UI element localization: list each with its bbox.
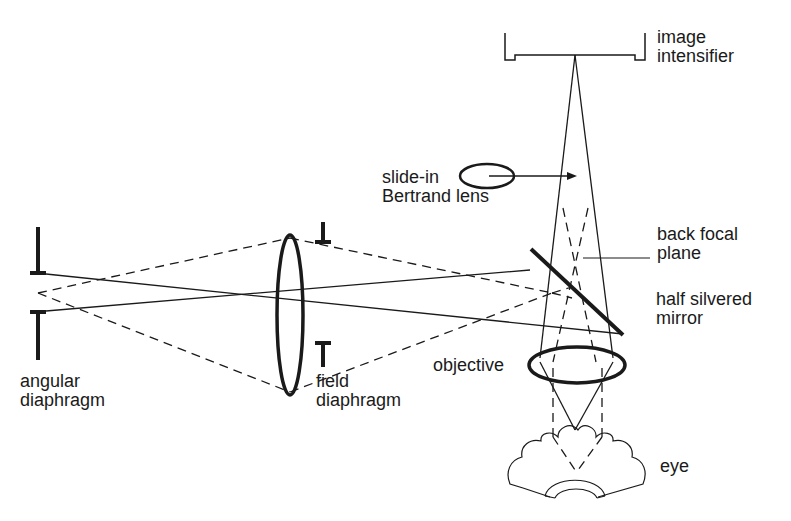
- label-back-focal-plane: back focal plane: [657, 225, 738, 263]
- label-line: angular: [20, 372, 105, 391]
- label-line: eye: [660, 456, 689, 476]
- label-line: plane: [657, 244, 738, 263]
- label-line: mirror: [656, 309, 752, 328]
- label-image-intensifier: image intensifier: [657, 28, 734, 66]
- field-diaphragm: [315, 222, 331, 367]
- eye-icon: [508, 426, 645, 498]
- label-bertrand-lens: slide-in Bertrand lens: [382, 168, 489, 206]
- label-line: back focal: [657, 225, 738, 244]
- label-angular-diaphragm: angular diaphragm: [20, 372, 105, 410]
- label-line: diaphragm: [20, 391, 105, 410]
- label-field-diaphragm: field diaphragm: [316, 372, 401, 410]
- label-line: half silvered: [656, 290, 752, 309]
- label-eye: eye: [660, 457, 689, 476]
- solid-rays-horizontal: [46, 270, 623, 334]
- label-line: image: [657, 28, 734, 47]
- label-line: objective: [433, 355, 504, 375]
- label-line: field: [316, 372, 401, 391]
- label-line: intensifier: [657, 47, 734, 66]
- label-line: Bertrand lens: [382, 187, 489, 206]
- label-line: diaphragm: [316, 391, 401, 410]
- bertrand-arrow: [489, 172, 577, 180]
- label-objective: objective: [433, 356, 504, 375]
- label-line: slide-in: [382, 168, 489, 187]
- label-half-silvered-mirror: half silvered mirror: [656, 290, 752, 328]
- condenser-lens: [277, 235, 303, 395]
